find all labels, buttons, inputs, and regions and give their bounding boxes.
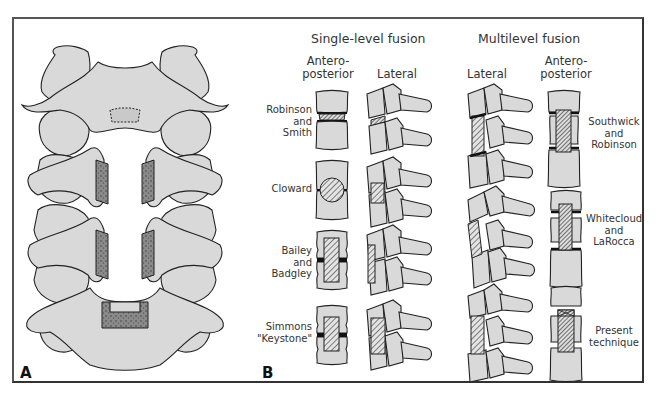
single-lateral-column-header: Lateral	[372, 68, 422, 81]
technique-label-cloward: Cloward	[250, 183, 312, 195]
robinson-smith-ap-diagram	[314, 90, 350, 152]
technique-label-simmons-keystone: Simmons "Keystone"	[250, 321, 312, 344]
panel-b-label: B	[262, 364, 273, 382]
single-level-title: Single-level fusion	[311, 31, 426, 46]
present-technique-lateral-diagram	[464, 284, 536, 384]
cloward-lateral-diagram	[363, 157, 435, 229]
technique-label-present-technique: Present technique	[582, 325, 646, 348]
bailey-badgley-ap-diagram	[314, 230, 350, 292]
panel-a-label: A	[20, 364, 32, 382]
technique-label-bailey-badgley: Bailey and Badgley	[250, 245, 312, 280]
present-technique-ap-diagram	[548, 286, 584, 386]
southwick-robinson-lateral-diagram	[464, 84, 536, 190]
panel-a-cervical-spine-illustration	[0, 0, 250, 393]
simmons-keystone-ap-diagram	[314, 305, 350, 367]
robinson-smith-lateral-diagram	[363, 84, 435, 154]
multi-ap-column-header: Antero- posterior	[534, 55, 598, 81]
technique-label-robinson-smith: Robinson and Smith	[250, 104, 312, 139]
whitecloud-larocca-ap-diagram	[548, 190, 584, 290]
whitecloud-larocca-lateral-diagram	[464, 184, 536, 290]
technique-label-southwick-robinson: Southwick and Robinson	[582, 116, 646, 151]
multi-lateral-column-header: Lateral	[462, 68, 512, 81]
multilevel-title: Multilevel fusion	[478, 31, 580, 46]
cloward-ap-diagram	[314, 160, 350, 222]
single-ap-column-header: Antero- posterior	[296, 55, 360, 81]
simmons-keystone-lateral-diagram	[363, 300, 435, 372]
technique-label-whitecloud-larocca: Whitecloud and LaRocca	[582, 213, 646, 248]
southwick-robinson-ap-diagram	[546, 90, 582, 190]
bailey-badgley-lateral-diagram	[363, 225, 435, 297]
